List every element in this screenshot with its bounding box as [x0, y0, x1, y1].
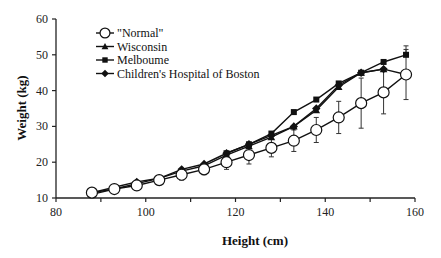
- diamond-marker: [101, 70, 109, 78]
- y-tick-label: 20: [36, 155, 48, 169]
- square-marker: [403, 52, 409, 58]
- open-circle-marker: [221, 157, 232, 168]
- x-tick-label: 100: [137, 205, 155, 219]
- y-axis-title: Weight (kg): [14, 75, 29, 140]
- y-tick-label: 40: [36, 84, 48, 98]
- open-circle-marker: [333, 112, 344, 123]
- y-tick-label: 60: [36, 12, 48, 26]
- open-circle-marker: [378, 87, 389, 98]
- open-circle-marker: [199, 164, 210, 175]
- legend-item: Melboume: [96, 53, 169, 67]
- open-circle-marker: [311, 124, 322, 135]
- open-circle-marker: [154, 175, 165, 186]
- legend-item: Children's Hospital of Boston: [96, 67, 260, 81]
- x-tick-label: 80: [50, 205, 62, 219]
- legend-label: Children's Hospital of Boston: [117, 67, 260, 81]
- legend-label: Wisconsin: [117, 40, 167, 54]
- open-circle-marker: [109, 184, 120, 195]
- legend: "Normal"WisconsinMelboumeChildren's Hosp…: [96, 26, 260, 81]
- open-circle-marker: [86, 187, 97, 198]
- square-marker: [102, 57, 107, 62]
- y-tick-label: 50: [36, 48, 48, 62]
- series-line: [92, 74, 406, 192]
- legend-item: Wisconsin: [96, 40, 167, 54]
- square-marker: [313, 97, 319, 103]
- open-circle-marker: [266, 142, 277, 153]
- x-tick-label: 140: [316, 205, 334, 219]
- square-marker: [291, 109, 297, 115]
- growth-chart: 10203040506080100120140160 "Normal"Wisco…: [0, 0, 441, 258]
- open-circle-marker: [100, 28, 110, 38]
- open-circle-marker: [356, 98, 367, 109]
- open-circle-marker: [131, 180, 142, 191]
- legend-label: "Normal": [117, 26, 164, 40]
- x-axis-title: Height (cm): [222, 233, 288, 248]
- legend-label: Melboume: [117, 53, 169, 67]
- series-line: [92, 69, 406, 193]
- open-circle-marker: [401, 69, 412, 80]
- square-marker: [381, 59, 387, 65]
- open-circle-marker: [176, 169, 187, 180]
- x-tick-label: 120: [227, 205, 245, 219]
- open-circle-marker: [243, 150, 254, 161]
- legend-item: "Normal": [96, 26, 164, 40]
- y-tick-label: 30: [36, 119, 48, 133]
- y-tick-label: 10: [36, 191, 48, 205]
- x-tick-label: 160: [406, 205, 424, 219]
- open-circle-marker: [288, 135, 299, 146]
